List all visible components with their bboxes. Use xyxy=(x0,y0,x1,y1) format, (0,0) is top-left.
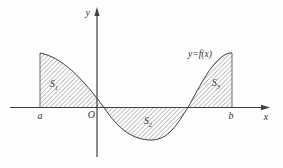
origin-label: O xyxy=(88,109,95,120)
y-axis-arrowhead-icon xyxy=(94,7,99,16)
region-s1-sub: 1 xyxy=(55,84,58,91)
figure-canvas: y x O a b y=f(x) S1 S2 S3 xyxy=(0,0,283,168)
x-axis-label: x xyxy=(263,111,269,122)
region-s3-fill xyxy=(188,53,232,108)
curve-label: y=f(x) xyxy=(187,49,212,60)
y-axis-label: y xyxy=(85,7,91,18)
a-label: a xyxy=(38,110,43,121)
function-area-diagram: y x O a b y=f(x) S1 S2 S3 xyxy=(0,0,283,168)
b-label: b xyxy=(229,110,234,121)
x-axis-arrowhead-icon xyxy=(261,105,270,110)
